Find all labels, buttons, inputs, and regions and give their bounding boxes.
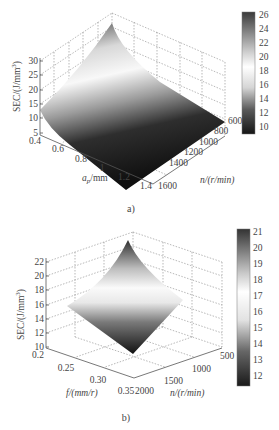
chart-b-caption: b)	[122, 412, 130, 424]
svg-text:18: 18	[253, 275, 263, 285]
svg-text:1600: 1600	[158, 181, 177, 191]
chart-a-caption: a)	[127, 203, 135, 215]
svg-text:10: 10	[259, 122, 269, 132]
svg-text:1.4: 1.4	[140, 181, 152, 191]
svg-text:1000: 1000	[199, 137, 218, 147]
figure: 30 25 20 15 10 5 SEC/(J/mm3) 0.4 0.6 0.8…	[0, 0, 279, 430]
svg-text:12: 12	[35, 328, 45, 338]
svg-text:16: 16	[35, 300, 45, 310]
svg-text:18: 18	[35, 285, 45, 295]
svg-text:25: 25	[29, 70, 39, 80]
chart-b: 22 20 18 16 14 12 10 SEC/(J/mm3) 0.2 0.2…	[14, 227, 263, 424]
svg-text:1500: 1500	[164, 376, 183, 386]
svg-text:18: 18	[259, 66, 269, 76]
chart-b-zlabel: SEC/(J/mm3)	[14, 289, 27, 340]
svg-text:0.30: 0.30	[90, 375, 107, 385]
svg-text:30: 30	[29, 56, 39, 66]
svg-text:24: 24	[259, 24, 269, 34]
svg-text:22: 22	[259, 38, 269, 48]
svg-text:20: 20	[253, 243, 263, 253]
svg-text:1.2: 1.2	[118, 172, 130, 182]
chart-a-zlabel: SEC/(J/mm3)	[10, 61, 23, 112]
chart-b-colorbar: 21 20 19 18 17 16 15 14 13 12	[237, 227, 263, 386]
svg-text:14: 14	[259, 94, 269, 104]
svg-text:19: 19	[253, 259, 263, 269]
svg-text:0.4: 0.4	[29, 136, 41, 146]
svg-text:26: 26	[259, 10, 269, 20]
svg-text:21: 21	[253, 227, 263, 237]
svg-text:20: 20	[259, 52, 269, 62]
svg-text:12: 12	[259, 108, 269, 118]
svg-text:14: 14	[35, 314, 45, 324]
svg-text:10: 10	[29, 113, 39, 123]
svg-text:1: 1	[100, 163, 105, 173]
svg-text:0.8: 0.8	[75, 154, 87, 164]
svg-text:20: 20	[35, 271, 45, 281]
svg-text:0.25: 0.25	[58, 363, 75, 373]
svg-text:2000: 2000	[135, 386, 154, 396]
svg-text:20: 20	[29, 85, 39, 95]
chart-a-surface	[40, 23, 225, 190]
svg-text:1000: 1000	[192, 364, 211, 374]
svg-text:600: 600	[228, 116, 243, 126]
chart-b-ylabel: n/(r/min)	[170, 388, 204, 399]
svg-text:0.2: 0.2	[32, 350, 44, 360]
svg-text:16: 16	[253, 307, 263, 317]
chart-a: 30 25 20 15 10 5 SEC/(J/mm3) 0.4 0.6 0.8…	[10, 10, 269, 215]
svg-text:15: 15	[253, 323, 263, 333]
svg-text:22: 22	[35, 257, 45, 267]
svg-text:800: 800	[214, 126, 229, 136]
svg-text:0.35: 0.35	[118, 386, 135, 396]
svg-text:16: 16	[259, 80, 269, 90]
svg-text:17: 17	[253, 291, 263, 301]
chart-a-colorbar: 26 24 22 20 18 16 14 12 10	[242, 10, 269, 134]
svg-text:500: 500	[220, 351, 235, 361]
svg-text:15: 15	[29, 99, 39, 109]
svg-text:12: 12	[253, 371, 263, 381]
svg-text:1400: 1400	[169, 158, 188, 168]
svg-text:1200: 1200	[184, 147, 203, 157]
chart-a-z-ticks: 30 25 20 15 10 5	[29, 56, 39, 138]
chart-a-xlabel: ap/mm	[82, 173, 108, 185]
svg-text:0.6: 0.6	[52, 144, 64, 154]
chart-b-xlabel: f/(mm/r)	[66, 388, 98, 399]
svg-text:13: 13	[253, 355, 263, 365]
chart-b-z-ticks: 22 20 18 16 14 12 10	[35, 257, 45, 352]
chart-a-ylabel: n/(r/min)	[200, 175, 234, 186]
svg-text:14: 14	[253, 339, 263, 349]
